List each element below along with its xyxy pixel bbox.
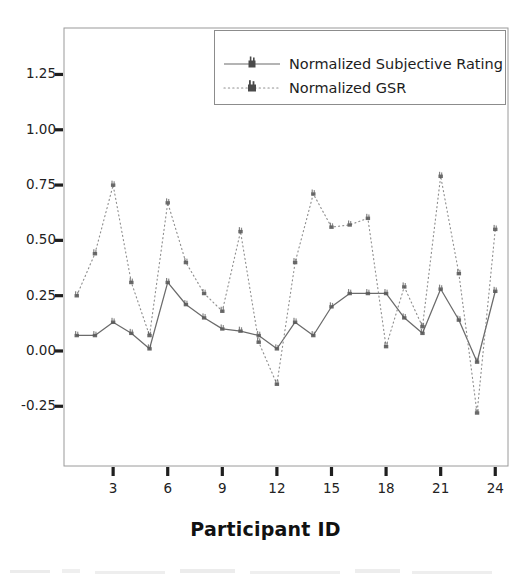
legend-item-gsr: Normalized GSR (223, 77, 406, 99)
legend-label-gsr: Normalized GSR (289, 81, 406, 96)
x-axis-tick-label: 24 (475, 482, 515, 496)
x-axis-tick-label: 15 (311, 482, 351, 496)
x-axis-tick-label: 18 (366, 482, 406, 496)
x-axis-title: Participant ID (0, 518, 531, 540)
chart-figure: -0.250.000.250.500.751.001.25 3691215182… (0, 0, 531, 579)
x-axis-tick-label: 21 (421, 482, 461, 496)
legend-label-subjective-rating: Normalized Subjective Rating (289, 57, 503, 72)
legend-swatch-dotted-line-icon (223, 79, 281, 97)
legend-item-subjective-rating: Normalized Subjective Rating (223, 53, 503, 75)
legend-swatch-solid-line-icon (223, 55, 281, 73)
x-axis-tick-label: 9 (202, 482, 242, 496)
page-artifact-strip (0, 566, 531, 579)
x-axis-tick-label: 3 (93, 482, 133, 496)
x-axis-tick-label: 12 (257, 482, 297, 496)
x-axis-tick-label: 6 (148, 482, 188, 496)
chart-legend: Normalized Subjective Rating Normalized … (214, 30, 506, 105)
